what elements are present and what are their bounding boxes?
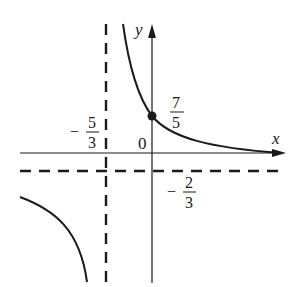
curve-lower-branch <box>20 197 87 282</box>
vertical-asymptote-denominator: 3 <box>88 134 96 151</box>
vertical-asymptote-sign: − <box>70 123 79 140</box>
origin-label: 0 <box>138 134 147 153</box>
y-intercept-numerator: 7 <box>172 94 180 111</box>
y-intercept-denominator: 5 <box>172 114 180 131</box>
y-intercept-point <box>148 112 157 121</box>
y-intercept-label: 7 5 <box>170 94 184 131</box>
horizontal-asymptote-denominator: 3 <box>185 194 193 211</box>
curve-upper-branch <box>123 24 282 153</box>
x-axis-label: x <box>271 129 280 148</box>
horizontal-asymptote-label: − 2 3 <box>167 174 196 211</box>
function-graph: y x 0 7 5 − 5 3 − 2 3 <box>0 0 298 287</box>
vertical-asymptote-label: − 5 3 <box>70 114 99 151</box>
horizontal-asymptote-numerator: 2 <box>185 174 193 191</box>
y-axis-label: y <box>133 20 143 39</box>
horizontal-asymptote-sign: − <box>167 183 176 200</box>
y-axis-arrow-icon <box>148 24 156 38</box>
vertical-asymptote-numerator: 5 <box>88 114 96 131</box>
